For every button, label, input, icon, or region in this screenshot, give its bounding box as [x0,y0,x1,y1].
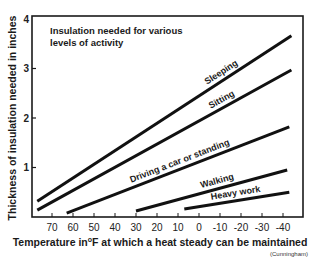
x-tick-label: 70 [46,222,58,233]
x-tick-label: -20 [234,222,249,233]
y-tick-label: 1 [23,162,29,173]
x-tick-label: 40 [109,222,121,233]
x-tick-label: -40 [276,222,291,233]
x-tick-label: -30 [255,222,270,233]
series-label-walking: Walking [199,171,235,190]
x-tick-label: 30 [130,222,142,233]
x-axis-ticks: 706050403020100-10-20-30-40 [46,213,290,233]
chart-title-line1: Insulation needed for various [50,25,183,36]
x-axis-title: Temperature inoF at which a heat steady … [13,236,308,248]
x-tick-label: 10 [172,222,184,233]
x-tick-label: 20 [151,222,163,233]
chart-title-line2: levels of activity [50,37,124,48]
y-axis-ticks: 1234 [23,14,36,174]
x-tick-label: -10 [213,222,228,233]
source-credit: (Cunningham) [270,251,308,257]
y-tick-label: 4 [23,14,29,25]
y-tick-label: 3 [23,63,29,74]
insulation-chart: 1234 706050403020100-10-20-30-40 Sleepin… [0,0,316,262]
x-tick-label: 0 [196,222,202,233]
y-tick-label: 2 [23,113,29,124]
y-axis-title: Thickness of insulation needed in inches [6,15,18,220]
x-tick-label: 50 [88,222,100,233]
x-tick-label: 60 [67,222,79,233]
